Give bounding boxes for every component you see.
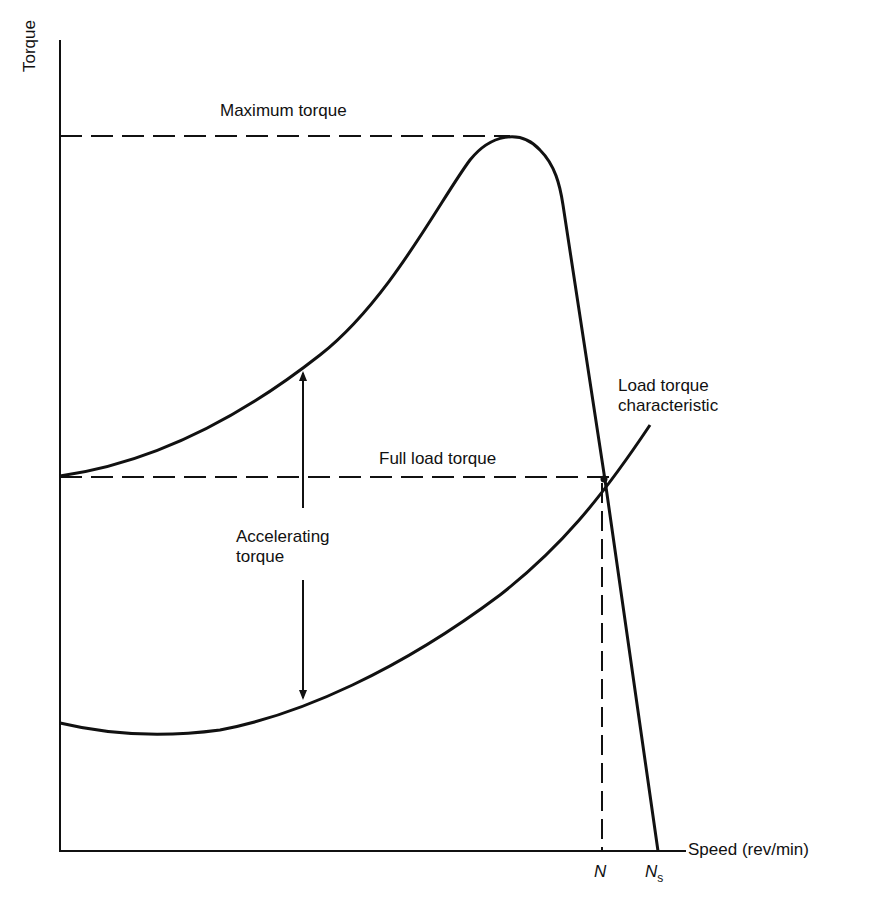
load-torque-characteristic-label: Load torque characteristic — [618, 376, 718, 416]
y-axis-label: Torque — [20, 20, 40, 72]
full-load-torque-label: Full load torque — [379, 449, 496, 469]
ns-tick-subscript: s — [657, 871, 663, 885]
n-tick-label: N — [594, 862, 606, 882]
load-torque-characteristic-line1: Load torque — [618, 376, 718, 396]
accelerating-torque-line2: torque — [236, 547, 330, 567]
maximum-torque-label: Maximum torque — [220, 101, 347, 121]
accelerating-torque-line1: Accelerating — [236, 527, 330, 547]
ns-tick-label: Ns — [645, 862, 663, 883]
load-torque-characteristic-line2: characteristic — [618, 396, 718, 416]
accelerating-torque-label: Accelerating torque — [236, 527, 330, 567]
operating-point — [601, 476, 608, 483]
ns-tick-main: N — [645, 862, 657, 881]
x-axis-label: Speed (rev/min) — [688, 840, 809, 860]
motor-torque-curve — [60, 137, 658, 851]
load-torque-curve — [60, 425, 650, 734]
